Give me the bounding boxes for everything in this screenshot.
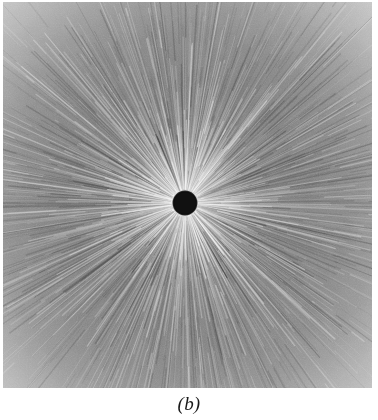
figure-root: (b) [0, 0, 378, 420]
radial-pattern-svg [3, 2, 372, 388]
radial-streak-image [3, 2, 372, 388]
figure-caption: (b) [0, 392, 378, 416]
